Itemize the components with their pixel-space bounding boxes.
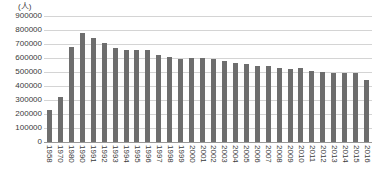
x-axis-tick: 2013 [329,144,338,184]
bar [58,97,63,143]
bar [189,58,194,142]
y-axis-tick-label: 300000 [0,96,42,104]
x-axis-tick: 2016 [362,144,371,184]
bar [211,59,216,142]
x-axis-tick: 2014 [340,144,349,184]
x-axis-tick: 1970 [56,144,65,184]
x-axis-tick: 2011 [307,144,316,184]
y-axis-tick-label: 200000 [0,110,42,118]
x-axis-tick: 2006 [253,144,262,184]
y-axis: 9000008000007000006000005000004000003000… [0,16,42,142]
gridline [44,30,372,31]
x-axis-tick-label: 1958 [45,145,53,163]
x-axis-tick-label: 1991 [89,145,97,163]
y-axis-tick-label: 100000 [0,124,42,132]
x-axis-tick-label: 2007 [264,145,272,163]
x-axis-tick: 2000 [187,144,196,184]
x-axis-tick-label: 1998 [166,145,174,163]
x-axis-tick-label: 1997 [155,145,163,163]
x-axis-tick: 2015 [351,144,360,184]
bar [266,66,271,142]
bar [309,71,314,142]
x-axis-tick: 1997 [154,144,163,184]
x-axis-tick-label: 2004 [231,145,239,163]
x-axis-tick: 1995 [132,144,141,184]
x-axis-tick: 1990 [78,144,87,184]
x-axis-tick: 2004 [231,144,240,184]
bar [244,64,249,142]
x-axis-tick-label: 2005 [242,145,250,163]
x-axis-tick: 1996 [143,144,152,184]
x-axis-tick-label: 1995 [133,145,141,163]
x-axis-tick: 1999 [176,144,185,184]
bar [353,73,358,142]
bar [178,59,183,142]
y-axis-tick-label: 500000 [0,68,42,76]
x-axis-tick: 1998 [165,144,174,184]
x-axis-tick: 1958 [45,144,54,184]
bar [124,50,129,142]
x-axis: 1958197019801990199119921993199419951996… [44,144,372,190]
x-axis-tick-label: 2012 [319,145,327,163]
bar [91,38,96,142]
bar [102,43,107,142]
bar [167,57,172,142]
x-axis-tick-label: 1970 [56,145,64,163]
bar [233,63,238,142]
x-axis-tick: 2002 [209,144,218,184]
y-axis-tick-label: 600000 [0,54,42,62]
y-axis-tick-label: 900000 [0,12,42,20]
x-axis-tick-label: 2013 [330,145,338,163]
y-axis-tick-label: 400000 [0,82,42,90]
bar [288,69,293,143]
x-axis-tick: 1993 [111,144,120,184]
bar [331,73,336,142]
bar [80,33,85,142]
x-axis-tick: 2005 [242,144,251,184]
plot-area [44,16,372,142]
x-axis-tick-label: 2009 [286,145,294,163]
gridline [44,16,372,17]
x-axis-tick-label: 2001 [199,145,207,163]
x-axis-tick-label: 2003 [220,145,228,163]
bar [145,50,150,142]
bar [255,66,260,142]
bar [156,55,161,143]
bar-chart: (人) 900000800000700000600000500000400000… [0,0,378,190]
x-axis-tick-label: 2016 [363,145,371,163]
bar [47,110,52,142]
x-axis-tick: 1994 [122,144,131,184]
y-axis-tick-label: 800000 [0,26,42,34]
x-axis-tick-label: 2010 [297,145,305,163]
x-axis-tick-label: 1980 [67,145,75,163]
x-axis-tick-label: 1996 [144,145,152,163]
x-axis-tick-label: 2008 [275,145,283,163]
bar [342,73,347,142]
x-axis-tick: 2009 [286,144,295,184]
x-axis-tick-label: 2011 [308,145,316,162]
y-axis-tick-label: 0 [0,138,42,146]
bar [222,61,227,142]
x-axis-tick-label: 2000 [188,145,196,163]
x-axis-tick: 2008 [275,144,284,184]
x-axis-tick: 2007 [264,144,273,184]
bar [134,50,139,142]
x-axis-tick: 1991 [89,144,98,184]
x-axis-tick: 2012 [318,144,327,184]
bar [298,68,303,142]
bar [200,58,205,142]
axis-baseline [44,142,372,143]
x-axis-tick: 2010 [296,144,305,184]
x-axis-tick: 1992 [100,144,109,184]
x-axis-tick-label: 2006 [253,145,261,163]
bar [69,47,74,142]
x-axis-tick-label: 1994 [122,145,130,163]
x-axis-tick-label: 2015 [352,145,360,163]
x-axis-tick-label: 1990 [78,145,86,163]
x-axis-tick-label: 1999 [177,145,185,163]
x-axis-tick-label: 2014 [341,145,349,163]
bar [277,68,282,142]
x-axis-tick-label: 1992 [100,145,108,163]
x-axis-tick: 2003 [220,144,229,184]
bar [113,48,118,143]
